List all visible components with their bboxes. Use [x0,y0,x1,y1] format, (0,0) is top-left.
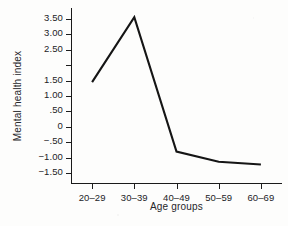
x-axis-title: Age groups [71,201,282,212]
x-tick [134,184,135,189]
y-tick-label: 3.50 [44,12,63,23]
chart-figure: Mental health index 3.503.002.501.501.00… [0,0,288,226]
y-tick-label: 1.50 [44,74,63,85]
y-tick-label: 0 [58,120,63,131]
y-tick-label: 1.00 [44,89,63,100]
series-polyline [92,17,261,164]
x-tick [261,184,262,189]
y-tick-label: −1.50 [38,166,63,177]
x-tick [177,184,178,189]
y-axis-title: Mental health index [10,8,26,184]
data-series-line [71,8,282,184]
plot-area: 3.503.002.501.501.00.500−.50−1.00−1.50 2… [71,8,282,184]
y-tick-label: 2.50 [44,43,63,54]
y-tick-label: 3.00 [44,27,63,38]
x-tick [219,184,220,189]
y-tick-label: .50 [49,104,63,115]
y-tick-label: −1.00 [38,151,63,162]
x-tick [92,184,93,189]
y-tick-label: −.50 [44,135,63,146]
